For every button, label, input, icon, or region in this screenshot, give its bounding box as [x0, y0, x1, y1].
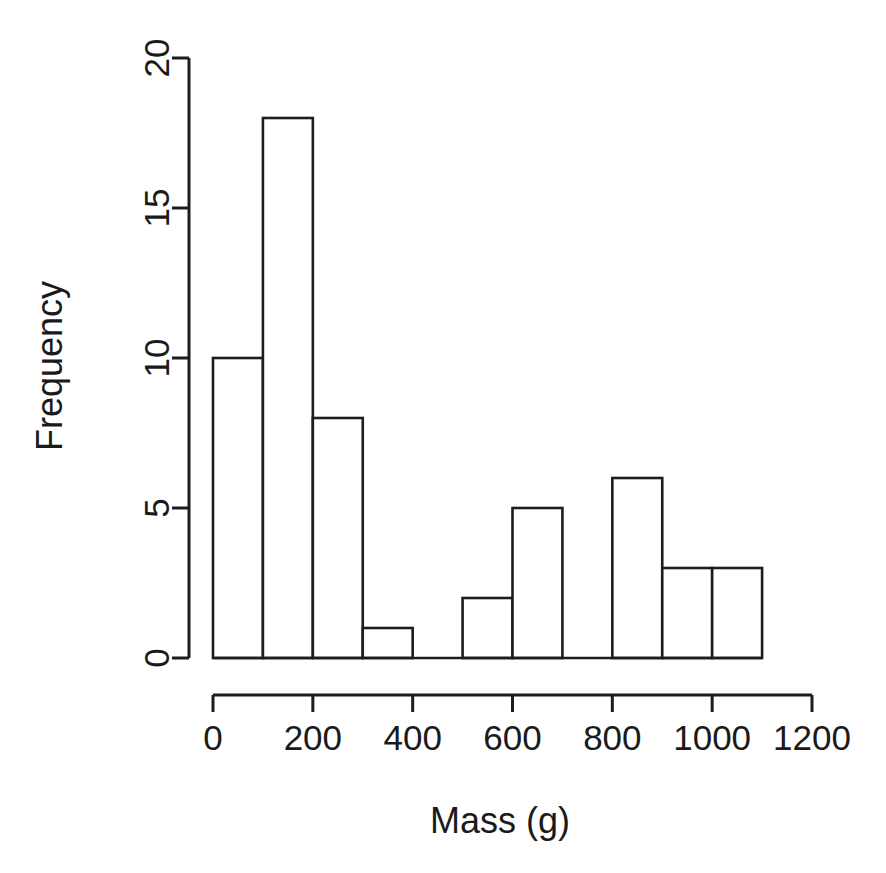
x-tick-label: 800 [583, 718, 641, 757]
histogram-bars [213, 118, 762, 658]
histogram-bar [213, 358, 263, 658]
x-tick-label: 1200 [773, 718, 851, 757]
y-tick-label: 0 [137, 648, 176, 667]
x-tick-label: 400 [383, 718, 441, 757]
x-tick-label: 0 [203, 718, 222, 757]
x-tick-label: 200 [284, 718, 342, 757]
y-axis-title: Frequency [29, 281, 70, 451]
histogram-bar [712, 568, 762, 658]
histogram-figure: 05101520 020040060080010001200 Mass (g) … [0, 0, 886, 873]
x-axis: 020040060080010001200 [203, 695, 851, 757]
plot-canvas: 05101520 020040060080010001200 Mass (g) … [0, 0, 886, 873]
histogram-bar [463, 598, 513, 658]
histogram-bar [513, 508, 563, 658]
histogram-bar [662, 568, 712, 658]
x-axis-title: Mass (g) [430, 800, 570, 841]
histogram-bar [313, 418, 363, 658]
y-tick-label: 5 [137, 498, 176, 517]
histogram-bar [612, 478, 662, 658]
y-tick-label: 15 [137, 189, 176, 228]
histogram-bar [363, 628, 413, 658]
x-tick-label: 1000 [673, 718, 751, 757]
y-tick-label: 20 [137, 39, 176, 78]
y-tick-label: 10 [137, 339, 176, 378]
histogram-bar [263, 118, 313, 658]
x-tick-label: 600 [483, 718, 541, 757]
y-axis: 05101520 [137, 39, 190, 668]
